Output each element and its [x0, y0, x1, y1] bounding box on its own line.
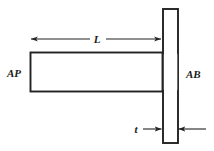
- plate-label-ab: AB: [185, 68, 201, 80]
- junction-mask: [164, 54, 178, 90]
- diagram-canvas: L t AP AB: [0, 0, 214, 151]
- thickness-dimension-label: t: [134, 123, 138, 135]
- length-dimension-label: L: [93, 33, 101, 45]
- beam-label-ap: AP: [6, 67, 21, 79]
- horizontal-beam-ap: [31, 53, 163, 92]
- engineering-diagram-figure: L t AP AB: [0, 0, 214, 151]
